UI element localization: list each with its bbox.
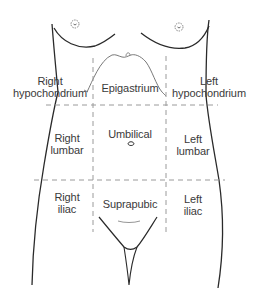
- region-label-line1: Right: [44, 132, 90, 144]
- region-label-line1: Left: [170, 133, 216, 145]
- region-left-iliac: Left iliac: [170, 193, 216, 217]
- region-label-line1: Suprapubic: [96, 198, 164, 210]
- region-left-hypochondrium: Left hypochondrium: [168, 75, 250, 99]
- region-label-line2: lumbar: [44, 144, 90, 156]
- torso-outline-drawing: [0, 0, 259, 297]
- region-right-hypochondrium: Right hypochondrium: [12, 75, 88, 99]
- region-label-line1: Right: [44, 191, 90, 203]
- region-left-lumbar: Left lumbar: [170, 133, 216, 157]
- region-label-line1: Epigastrium: [96, 82, 164, 94]
- region-label-line2: hypochondrium: [168, 87, 250, 99]
- region-suprapubic: Suprapubic: [96, 198, 164, 210]
- region-label-line1: Left: [168, 75, 250, 87]
- abdominal-regions-diagram: Right hypochondrium Epigastrium Left hyp…: [0, 0, 259, 297]
- pubic-cleft-line: [124, 247, 137, 285]
- umbilicus-icon: [128, 142, 134, 146]
- region-label-line2: iliac: [170, 205, 216, 217]
- right-nipple-icon: [71, 20, 79, 28]
- region-label-line1: Umbilical: [96, 128, 164, 140]
- region-label-line1: Left: [170, 193, 216, 205]
- region-label-line2: iliac: [44, 203, 90, 215]
- region-right-iliac: Right iliac: [44, 191, 90, 215]
- groin-line: [99, 217, 157, 249]
- region-epigastrium: Epigastrium: [96, 82, 164, 94]
- region-right-lumbar: Right lumbar: [44, 132, 90, 156]
- region-umbilical: Umbilical: [96, 128, 164, 140]
- left-breast-curve: [141, 26, 209, 48]
- region-label-line2: hypochondrium: [12, 87, 88, 99]
- region-label-line1: Right: [12, 75, 88, 87]
- left-nipple-icon: [175, 23, 183, 31]
- region-label-line2: lumbar: [170, 145, 216, 157]
- right-breast-curve: [54, 28, 115, 47]
